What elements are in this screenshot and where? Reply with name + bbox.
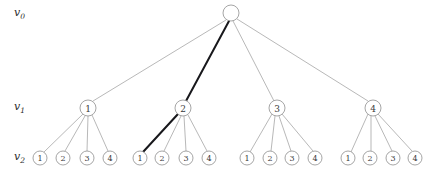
row-label-v0: v0 (14, 6, 25, 21)
node-label: 1 (244, 154, 249, 163)
tree-edge (184, 116, 186, 151)
tree-leaf-node[interactable]: 2 (155, 151, 169, 165)
tree-edge-highlighted (186, 21, 229, 101)
row-label-v1: v1 (14, 100, 25, 115)
node-label: 2 (60, 154, 65, 163)
node-label: 3 (289, 154, 294, 163)
node-label: 3 (183, 154, 188, 163)
edges-thin-layer (44, 19, 412, 152)
node-label: 1 (85, 104, 91, 114)
tree-branch-node[interactable]: 2 (175, 100, 191, 116)
tree-leaf-node[interactable]: 1 (33, 151, 47, 165)
node-label: 3 (84, 154, 89, 163)
node-label: 2 (180, 104, 186, 114)
tree-leaf-node[interactable]: 3 (386, 151, 400, 165)
row-labels-layer: v0v1v2 (14, 6, 25, 165)
node-label: 4 (412, 154, 417, 163)
tree-branch-node[interactable]: 4 (365, 100, 381, 116)
tree-leaf-node[interactable]: 3 (179, 151, 193, 165)
node-label: 2 (267, 154, 272, 163)
tree-leaf-node[interactable]: 3 (80, 151, 94, 165)
node-label: 1 (137, 154, 142, 163)
tree-root-node[interactable] (223, 5, 239, 21)
row-label-v2: v2 (14, 150, 25, 165)
tree-diagram: 12341234123412341234 v0v1v2 (0, 0, 435, 175)
tree-leaf-node[interactable]: 3 (285, 151, 299, 165)
tree-edge (188, 115, 207, 151)
node-label: 1 (37, 154, 42, 163)
tree-edge (375, 116, 392, 151)
tree-branch-node[interactable]: 3 (269, 100, 285, 116)
tree-leaf-node[interactable]: 2 (56, 151, 70, 165)
edges-thick-layer (143, 21, 229, 152)
node-label: 3 (390, 154, 395, 163)
tree-leaf-node[interactable]: 1 (133, 151, 147, 165)
node-label: 4 (107, 154, 112, 163)
node-label: 4 (206, 154, 211, 163)
node-label: 1 (345, 154, 350, 163)
node-label: 4 (312, 154, 317, 163)
tree-leaf-node[interactable]: 1 (240, 151, 254, 165)
tree-edge (351, 114, 368, 152)
node-label: 2 (367, 154, 372, 163)
tree-leaf-node[interactable]: 2 (263, 151, 277, 165)
tree-edge (233, 21, 274, 101)
node-label: 4 (370, 104, 376, 114)
tree-diagram-canvas: 12341234123412341234 v0v1v2 (0, 0, 435, 175)
node-label: 2 (159, 154, 164, 163)
tree-leaf-node[interactable]: 4 (202, 151, 216, 165)
tree-edge (87, 116, 88, 151)
tree-edge (237, 19, 368, 101)
tree-branch-node[interactable]: 1 (80, 100, 96, 116)
tree-edge (271, 116, 275, 151)
tree-leaf-node[interactable]: 4 (408, 151, 422, 165)
tree-edge (250, 114, 272, 152)
node-label: 3 (274, 104, 280, 114)
tree-edge (65, 116, 85, 151)
tree-edge (93, 20, 226, 101)
tree-leaf-node[interactable]: 1 (341, 151, 355, 165)
tree-leaf-node[interactable]: 2 (363, 151, 377, 165)
node-circle (223, 5, 239, 21)
tree-leaf-node[interactable]: 4 (308, 151, 322, 165)
tree-leaf-node[interactable]: 4 (103, 151, 117, 165)
tree-edge (279, 116, 291, 151)
nodes-layer: 12341234123412341234 (33, 5, 422, 165)
tree-edge (282, 114, 313, 151)
tree-edge (44, 114, 83, 152)
tree-edge (92, 115, 108, 151)
